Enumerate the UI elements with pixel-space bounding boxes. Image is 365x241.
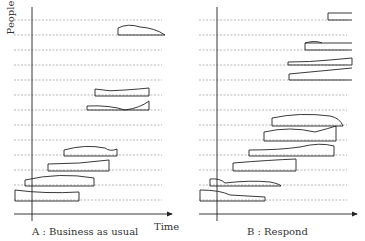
panel-b xyxy=(199,7,357,221)
panel-a-caption: A : Business as usual xyxy=(32,226,138,237)
gridlines xyxy=(199,20,347,200)
x-axis-label: Time xyxy=(154,221,179,232)
y-axis-label: People xyxy=(5,1,16,35)
diagram xyxy=(0,0,365,241)
activities xyxy=(200,13,352,201)
panel-a xyxy=(14,7,172,221)
activities xyxy=(15,25,165,201)
panel-b-caption: B : Respond xyxy=(247,226,308,237)
